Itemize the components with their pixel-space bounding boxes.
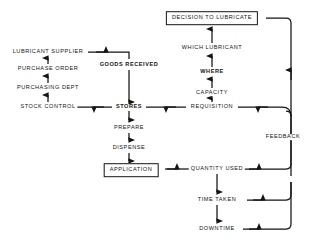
edge-timetaken-feedback bbox=[247, 182, 291, 200]
edge-feedback-requisition bbox=[238, 107, 291, 116]
node-goods-received[interactable]: GOODS RECEIVED bbox=[98, 62, 161, 68]
edge-supplier-goodsreceived bbox=[88, 52, 129, 59]
edge-quantityused-feedback bbox=[243, 116, 291, 169]
node-quantity-used[interactable]: QUANTITY USED bbox=[189, 166, 245, 172]
node-downtime[interactable]: DOWNTIME bbox=[197, 226, 236, 232]
node-time-taken[interactable]: TIME TAKEN bbox=[196, 197, 239, 203]
node-application[interactable]: APPLICATION bbox=[104, 163, 159, 177]
edge-decision-feedback bbox=[266, 18, 291, 116]
node-lubricant-supplier[interactable]: LUBRICANT SUPPLIER bbox=[11, 49, 86, 55]
node-purchasing-dept[interactable]: PURCHASING DEPT bbox=[15, 85, 81, 91]
node-prepare[interactable]: PREPARE bbox=[112, 125, 146, 131]
node-dispense[interactable]: DISPENSE bbox=[111, 145, 148, 151]
node-stores[interactable]: STORES bbox=[114, 104, 144, 110]
node-stock-control[interactable]: STOCK CONTROL bbox=[18, 104, 77, 110]
node-where[interactable]: WHERE bbox=[198, 69, 226, 75]
node-feedback-label: FEEDBACK bbox=[264, 134, 303, 140]
diagram-connectors bbox=[0, 0, 317, 243]
edge-downtime-feedback bbox=[243, 182, 291, 229]
node-decision-to-lubricate[interactable]: DECISION TO LUBRICATE bbox=[166, 11, 258, 25]
node-capacity[interactable]: CAPACITY bbox=[194, 90, 230, 96]
diagram-canvas: DECISION TO LUBRICATE WHICH LUBRICANT WH… bbox=[0, 0, 317, 243]
node-purchase-order[interactable]: PURCHASE ORDER bbox=[16, 66, 81, 72]
node-requisition[interactable]: REQUISITION bbox=[189, 104, 235, 110]
node-which-lubricant[interactable]: WHICH LUBRICANT bbox=[180, 45, 244, 51]
